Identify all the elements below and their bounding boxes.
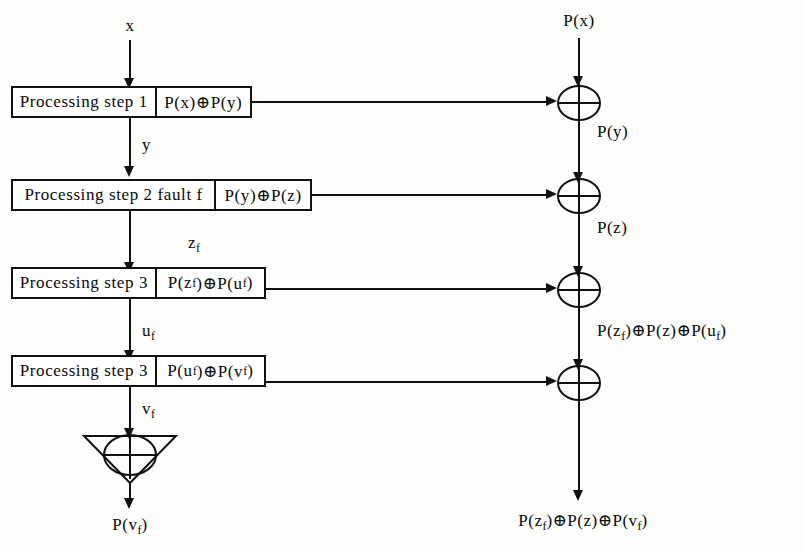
f3a-p3: ) — [247, 273, 253, 293]
final-right-output-formula: P(zf)⊕P(z)⊕P(vf) — [518, 512, 647, 532]
final-left-output-arrowhead — [124, 498, 134, 509]
diagram-canvas: x Processing step 1 P(x)⊕P(y) y Processi… — [0, 0, 803, 551]
f3b-p1: P(u — [167, 361, 192, 381]
process-box-2-step-label: Processing step 2 fault f — [13, 181, 216, 209]
parity-feed-line-1 — [252, 101, 549, 103]
process-box-4[interactable]: Processing step 3 P(uf)⊕P(vf) — [11, 355, 266, 387]
process-box-4-step-label: Processing step 3 — [13, 357, 157, 385]
final-left-p2: ) — [141, 515, 147, 534]
parity-z-line — [578, 213, 580, 273]
edge-y-line — [129, 118, 131, 170]
process-box-1-step-label: Processing step 1 — [13, 88, 157, 116]
final-right-output-line — [578, 400, 580, 495]
xor-gate-3[interactable] — [556, 271, 602, 309]
mid-p2: )⊕P(z)⊕P(u — [625, 321, 716, 340]
final-right-output-arrowhead — [573, 490, 583, 501]
edge-zf-line — [129, 211, 131, 266]
input-label-x: x — [126, 17, 135, 34]
nabla-xor-vbar — [129, 437, 131, 479]
edge-label-zf: zf — [188, 234, 200, 254]
edge-label-uf: uf — [142, 322, 155, 342]
final-left-p1: P(v — [112, 515, 137, 534]
mid-p1: P(z — [597, 321, 621, 340]
xor-gate-1[interactable] — [556, 84, 602, 122]
parity-feed-line-2 — [312, 194, 549, 196]
final-left-output-label: P(vf) — [112, 516, 147, 536]
parity-label-y: P(y) — [597, 123, 628, 140]
mid-p3: ) — [720, 321, 726, 340]
edge-label-vf: vf — [142, 400, 155, 420]
edge-label-zf-base: z — [188, 233, 196, 252]
process-box-3[interactable]: Processing step 3 P(zf)⊕P(uf) — [11, 267, 266, 299]
process-box-3-parity-label: P(zf)⊕P(uf) — [157, 269, 264, 297]
process-box-2[interactable]: Processing step 2 fault f P(y)⊕P(z) — [11, 179, 312, 211]
f3a-p1: P(z — [168, 273, 192, 293]
parity-feed-line-4 — [266, 381, 549, 383]
f3b-p2: )⊕P(v — [197, 361, 244, 382]
edge-label-zf-sub: f — [196, 241, 200, 255]
process-box-2-parity-label: P(y)⊕P(z) — [216, 181, 310, 209]
edge-label-y: y — [142, 136, 151, 153]
edge-y-arrowhead — [124, 166, 134, 177]
process-box-1[interactable]: Processing step 1 P(x)⊕P(y) — [11, 86, 252, 118]
xor-gate-2[interactable] — [556, 177, 602, 215]
parity-label-z: P(z) — [597, 219, 627, 236]
xor-gate-4[interactable] — [556, 364, 602, 402]
process-box-1-parity-label: P(x)⊕P(y) — [157, 88, 250, 116]
parity-mid-formula: P(zf)⊕P(z)⊕P(uf) — [597, 322, 726, 342]
f3a-p2: )⊕P(u — [196, 273, 243, 294]
parity-mid-line — [578, 307, 580, 365]
edge-label-vf-base: v — [142, 399, 151, 418]
edge-label-uf-sub: f — [151, 329, 155, 343]
process-box-3-step-label: Processing step 3 — [13, 269, 157, 297]
edge-uf-line — [129, 299, 131, 354]
process-box-4-parity-label: P(uf)⊕P(vf) — [157, 357, 264, 385]
parity-feed-line-3 — [266, 288, 549, 290]
edge-vf-line — [129, 387, 131, 431]
edge-label-vf-sub: f — [151, 407, 155, 421]
f3b-p3: ) — [247, 361, 253, 381]
edge-label-uf-base: u — [142, 321, 151, 340]
bot-p2: )⊕P(z)⊕P(v — [546, 511, 637, 530]
parity-input-label: P(x) — [563, 12, 594, 29]
parity-y-line — [578, 120, 580, 178]
bot-p3: ) — [642, 511, 648, 530]
bot-p1: P(z — [518, 511, 542, 530]
